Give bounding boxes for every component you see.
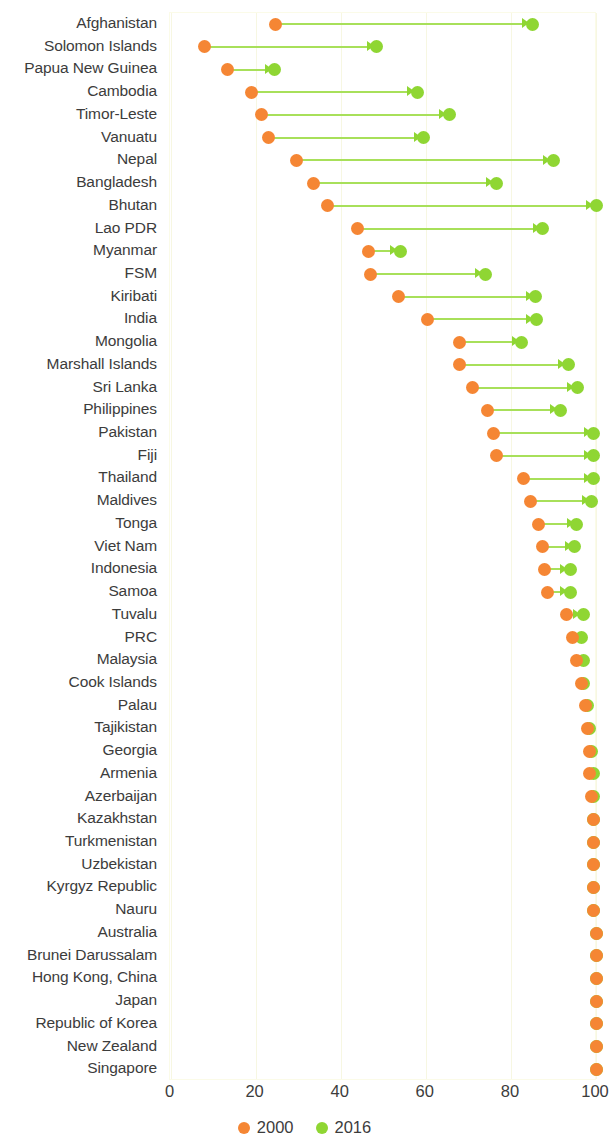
point-2000: [590, 972, 603, 985]
data-row: [170, 399, 595, 422]
legend-item[interactable]: 2000: [238, 1118, 294, 1137]
data-row: [170, 808, 595, 831]
legend-label: 2016: [335, 1118, 372, 1137]
data-row: [170, 536, 595, 559]
point-2000: [351, 222, 364, 235]
category-label: Republic of Korea: [35, 1012, 157, 1035]
point-2016: [443, 108, 456, 121]
category-label: Bangladesh: [76, 171, 157, 194]
point-2000: [541, 586, 554, 599]
data-row: [170, 854, 595, 877]
point-2000: [587, 813, 600, 826]
change-connector: [473, 387, 578, 389]
data-row: [170, 240, 595, 263]
data-row: [170, 558, 595, 581]
category-label: Kiribati: [110, 285, 157, 308]
category-label: Indonesia: [91, 557, 157, 580]
data-row: [170, 581, 595, 604]
data-row: [170, 263, 595, 286]
point-2000: [517, 472, 530, 485]
point-2000: [290, 154, 303, 167]
point-2000: [245, 86, 258, 99]
point-2016: [529, 290, 542, 303]
data-row: [170, 945, 595, 968]
data-row: [170, 445, 595, 468]
category-label: Solomon Islands: [44, 35, 157, 58]
point-2000: [421, 313, 434, 326]
category-label: Armenia: [100, 762, 157, 785]
point-2016: [268, 63, 281, 76]
point-2016: [479, 268, 492, 281]
data-row: [170, 81, 595, 104]
point-2016: [515, 336, 528, 349]
category-label: Sri Lanka: [92, 376, 157, 399]
data-row: [170, 967, 595, 990]
category-label: Palau: [118, 694, 157, 717]
x-tick-label: 60: [416, 1082, 434, 1101]
category-label: Kazakhstan: [77, 807, 157, 830]
point-2016: [585, 495, 598, 508]
category-label: Nepal: [117, 148, 157, 171]
category-label: Turkmenistan: [65, 830, 157, 853]
point-2000: [590, 1040, 603, 1053]
category-label: Brunei Darussalam: [27, 944, 157, 967]
x-axis: 020406080100: [169, 1082, 596, 1108]
category-label: Mongolia: [95, 330, 157, 353]
point-2000: [453, 358, 466, 371]
point-2016: [564, 563, 577, 576]
change-connector: [328, 205, 596, 207]
category-axis-labels: AfghanistanSolomon IslandsPapua New Guin…: [0, 12, 163, 1080]
point-2000: [262, 131, 275, 144]
change-connector: [251, 91, 417, 93]
data-row: [170, 467, 595, 490]
category-label: Pakistan: [98, 421, 157, 444]
legend-item[interactable]: 2016: [316, 1118, 372, 1137]
data-row: [170, 740, 595, 763]
data-row: [170, 831, 595, 854]
category-label: India: [124, 307, 157, 330]
category-label: Lao PDR: [95, 217, 157, 240]
point-2016: [530, 313, 543, 326]
data-row: [170, 172, 595, 195]
legend-swatch-icon: [316, 1122, 328, 1134]
data-row: [170, 377, 595, 400]
point-2016: [587, 472, 600, 485]
change-connector: [275, 23, 532, 25]
category-label: Afghanistan: [76, 12, 157, 35]
change-connector: [494, 432, 594, 434]
point-2016: [571, 381, 584, 394]
data-row: [170, 286, 595, 309]
category-label: Timor-Leste: [76, 103, 157, 126]
point-2000: [587, 904, 600, 917]
category-label: Cambodia: [87, 80, 157, 103]
point-2000: [575, 677, 588, 690]
point-2016: [564, 586, 577, 599]
point-2000: [321, 199, 334, 212]
point-2000: [466, 381, 479, 394]
x-tick-label: 0: [165, 1082, 174, 1101]
category-label: Japan: [115, 989, 157, 1012]
category-label: Singapore: [87, 1057, 157, 1080]
category-label: Papua New Guinea: [24, 57, 157, 80]
x-tick-label: 100: [581, 1082, 609, 1101]
change-connector: [262, 114, 449, 116]
data-row: [170, 36, 595, 59]
point-2016: [562, 358, 575, 371]
category-label: Uzbekistan: [81, 853, 157, 876]
point-2000: [269, 18, 282, 31]
data-row: [170, 1036, 595, 1059]
change-connector: [460, 364, 569, 366]
data-row: [170, 876, 595, 899]
legend-swatch-icon: [238, 1122, 250, 1134]
category-label: Fiji: [138, 444, 157, 467]
data-row: [170, 13, 595, 36]
plot-area: [169, 12, 596, 1080]
point-2000: [560, 608, 573, 621]
data-row: [170, 1013, 595, 1036]
change-connector: [428, 318, 537, 320]
change-connector: [268, 137, 423, 139]
category-label: Samoa: [108, 580, 157, 603]
category-label: Cook Islands: [69, 671, 157, 694]
category-label: Myanmar: [93, 239, 157, 262]
point-2016: [370, 40, 383, 53]
